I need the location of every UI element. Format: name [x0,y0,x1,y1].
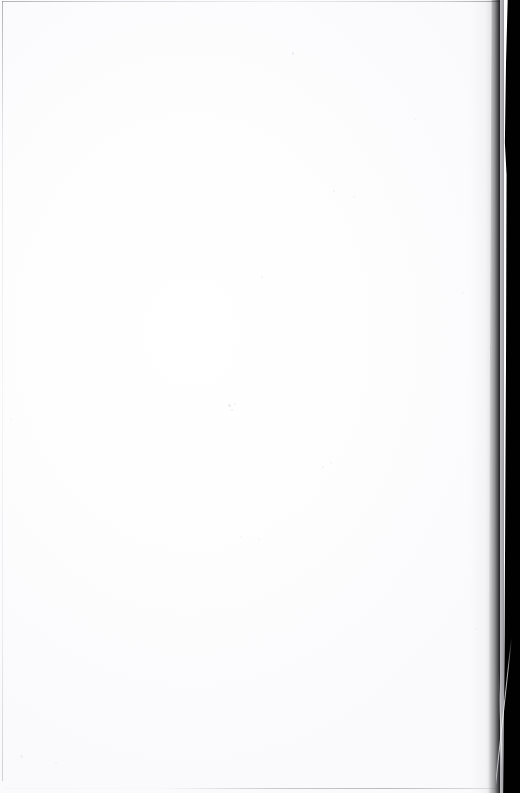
scanned-page [0,0,520,793]
paper-illumination-shading [0,0,504,793]
paper-surface [0,0,504,793]
page-edge-rule-bottom [4,788,496,789]
page-edge-rule-left [2,1,3,781]
page-edge-rule-top [2,1,499,2]
